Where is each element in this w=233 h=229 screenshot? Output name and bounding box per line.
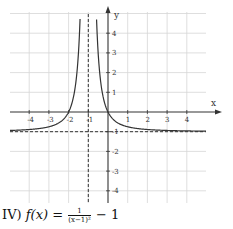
- x-tick-label: 3: [165, 116, 169, 124]
- x-axis-label: x: [211, 98, 216, 108]
- caption-rest: − 1: [96, 207, 119, 222]
- x-tick-label: -3: [47, 116, 54, 124]
- x-tick-label: -4: [27, 116, 34, 124]
- curve-left-branch: [10, 19, 80, 130]
- function-caption: IV) f(x) = 1 (x−1)² − 1: [2, 207, 119, 224]
- y-tick-label: 2: [112, 69, 116, 77]
- y-tick-label: -3: [112, 168, 119, 176]
- caption-denominator: (x−1)²: [68, 216, 91, 224]
- caption-numerator: 1: [68, 207, 91, 216]
- x-tick-label: 4: [185, 116, 190, 124]
- y-tick-label: 4: [112, 30, 117, 38]
- x-axis-arrow: [215, 110, 222, 115]
- x-tick-label: 1: [126, 116, 130, 124]
- x-tick-label: -1: [86, 116, 93, 124]
- x-tick-label: 2: [145, 116, 149, 124]
- caption-lhs: f(x) =: [26, 207, 63, 222]
- function-plot: xy -4-3-2-112344321-1-2-3-4: [0, 0, 233, 229]
- y-tick-label: 3: [112, 49, 116, 57]
- caption-label: IV): [2, 207, 22, 222]
- y-tick-label: -4: [112, 187, 119, 195]
- y-axis-label: y: [113, 10, 120, 20]
- y-axis-arrow: [106, 6, 111, 13]
- caption-fraction: 1 (x−1)²: [68, 207, 91, 224]
- y-tick-label: -2: [112, 148, 119, 156]
- y-tick-label: 1: [112, 89, 116, 97]
- x-tick-label: -2: [67, 116, 74, 124]
- y-tick-label: -1: [112, 128, 119, 136]
